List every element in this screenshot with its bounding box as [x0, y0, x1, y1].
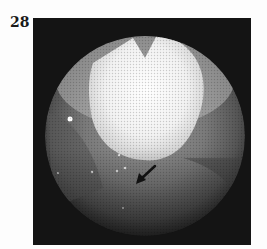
figure-number: 28: [10, 15, 29, 29]
endoscopic-photo: [33, 18, 251, 245]
figure-page: 28: [0, 0, 267, 249]
